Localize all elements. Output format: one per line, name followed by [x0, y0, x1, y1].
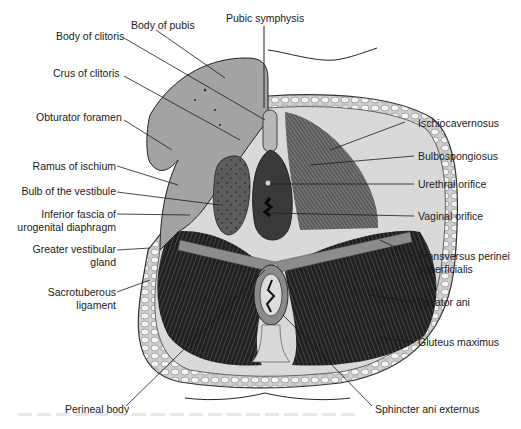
label-transversus-line2: superficialis — [418, 263, 473, 275]
label-pubic-symphysis: Pubic symphysis — [226, 12, 304, 24]
label-crus-of-clitoris: Crus of clitoris — [53, 67, 120, 79]
label-sacrotuberous-line2: ligament — [10, 299, 116, 311]
label-vaginal-orifice: Vaginal orifice — [418, 210, 483, 222]
label-ramus-of-ischium: Ramus of ischium — [20, 160, 116, 172]
label-sacrotuberous-line1: Sacrotuberous — [10, 286, 116, 298]
label-body-of-clitoris: Body of clitoris — [56, 30, 124, 42]
label-greater-vestibular-line1: Greater vestibular — [10, 243, 116, 255]
label-urethral-orifice: Urethral orifice — [418, 178, 486, 190]
label-bulbospongiosus: Bulbospongiosus — [418, 150, 498, 162]
clitoris — [263, 110, 277, 152]
label-obturator-foramen: Obturator foramen — [36, 111, 122, 123]
label-ischiocavernosus: Ischiocavernosus — [418, 117, 499, 129]
label-inferior-fascia-line2: urogenital diaphragm — [10, 221, 116, 233]
label-greater-vestibular-line2: gland — [10, 256, 116, 268]
label-gluteus-maximus: Gluteus maximus — [418, 336, 499, 348]
label-body-of-pubis: Body of pubis — [131, 19, 195, 31]
label-inferior-fascia-line1: Inferior fascia of — [10, 208, 116, 220]
label-bulb-of-vestibule: Bulb of the vestibule — [10, 185, 116, 197]
label-sphincter-ani-externus: Sphincter ani externus — [375, 403, 479, 415]
faded-caption-line — [18, 413, 358, 416]
label-levator-ani: Levator ani — [418, 296, 470, 308]
label-transversus-line1: Transversus perinei — [418, 250, 510, 262]
